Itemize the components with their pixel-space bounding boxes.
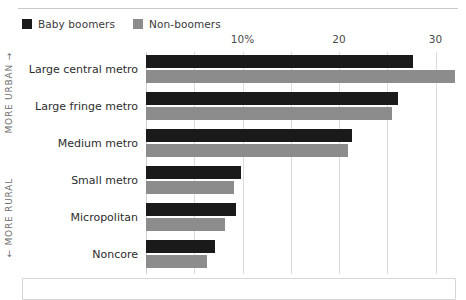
bar-group-3 xyxy=(146,164,466,201)
bar-group-1 xyxy=(146,90,466,127)
bar-baby-boomers-5[interactable] xyxy=(146,240,215,253)
legend-item-baby-boomers[interactable]: Baby boomers xyxy=(22,18,115,30)
category-label-4: Micropolitan xyxy=(0,211,138,224)
bar-group-5 xyxy=(146,238,466,275)
bar-non-boomers-2[interactable] xyxy=(146,144,348,157)
x-tick-label-20: 20 xyxy=(332,33,345,45)
bar-group-0 xyxy=(146,53,466,90)
bottom-frame xyxy=(22,278,456,300)
category-label-5: Noncore xyxy=(0,248,138,261)
legend-swatch-baby-boomers xyxy=(22,19,32,29)
category-label-2: Medium metro xyxy=(0,137,138,150)
top-divider xyxy=(18,8,458,9)
bar-group-2 xyxy=(146,127,466,164)
legend-label-baby-boomers: Baby boomers xyxy=(38,18,115,30)
bar-non-boomers-1[interactable] xyxy=(146,107,392,120)
bar-baby-boomers-4[interactable] xyxy=(146,203,236,216)
bar-non-boomers-0[interactable] xyxy=(146,70,455,83)
bar-baby-boomers-2[interactable] xyxy=(146,129,352,142)
category-label-3: Small metro xyxy=(0,174,138,187)
category-label-0: Large central metro xyxy=(0,63,138,76)
legend-item-non-boomers[interactable]: Non-boomers xyxy=(133,18,221,30)
bar-non-boomers-3[interactable] xyxy=(146,181,234,194)
category-label-1: Large fringe metro xyxy=(0,100,138,113)
bar-non-boomers-5[interactable] xyxy=(146,255,207,268)
bar-baby-boomers-0[interactable] xyxy=(146,55,413,68)
x-tick-label-30: 30 xyxy=(429,33,442,45)
chart-legend: Baby boomers Non-boomers xyxy=(22,18,221,30)
bar-baby-boomers-1[interactable] xyxy=(146,92,398,105)
legend-label-non-boomers: Non-boomers xyxy=(149,18,221,30)
bar-non-boomers-4[interactable] xyxy=(146,218,225,231)
bar-group-4 xyxy=(146,201,466,238)
x-tick-label-10: 10% xyxy=(231,33,254,45)
bar-baby-boomers-3[interactable] xyxy=(146,166,241,179)
legend-swatch-non-boomers xyxy=(133,19,143,29)
